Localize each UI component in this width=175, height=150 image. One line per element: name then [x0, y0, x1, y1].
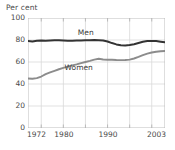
x-tick-label-1990: 1990 [99, 131, 118, 139]
line-chart: Per cent 020406080100 1972198019902003 M… [0, 0, 175, 150]
data-series [28, 40, 165, 79]
series-line-women [28, 51, 165, 79]
x-axis-tick-labels: 1972198019902003 [0, 131, 175, 143]
y-tick-label-60: 60 [15, 58, 25, 66]
y-axis-tick-labels: 020406080100 [0, 18, 25, 128]
plot-area [28, 18, 165, 128]
x-tick-label-1980: 1980 [54, 131, 73, 139]
y-tick-label-100: 100 [11, 14, 25, 22]
y-tick-label-80: 80 [15, 36, 25, 44]
series-line-men [28, 40, 165, 45]
x-tick-label-1972: 1972 [27, 131, 46, 139]
plot-svg [28, 18, 165, 128]
series-label-men: Men [78, 29, 94, 37]
x-tick-label-2003: 2003 [147, 131, 166, 139]
y-tick-label-40: 40 [15, 80, 25, 88]
y-axis-title: Per cent [6, 3, 38, 12]
series-label-women: Women [65, 64, 93, 72]
y-tick-label-20: 20 [15, 102, 25, 110]
